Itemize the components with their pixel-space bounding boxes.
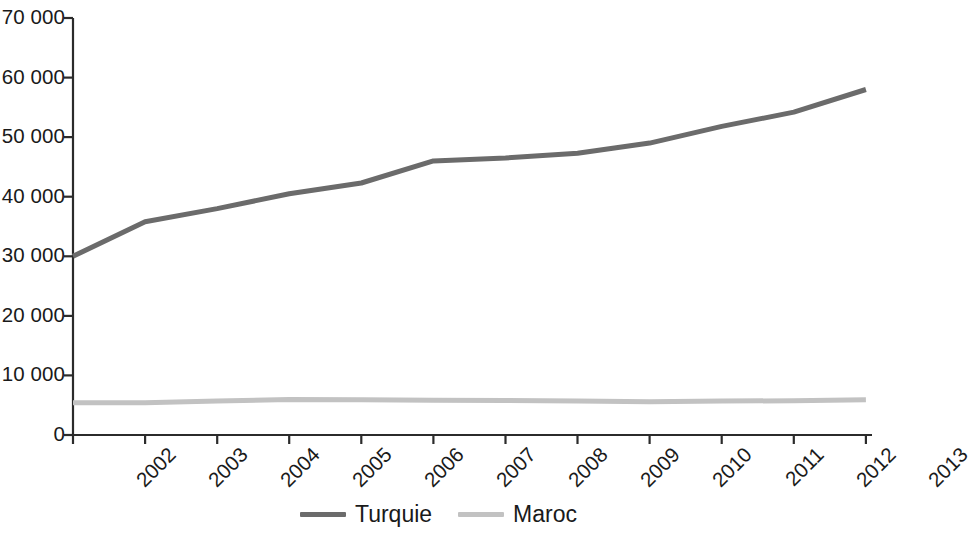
y-tick-label-0: 0: [0, 424, 65, 445]
legend-swatch-turquie: [300, 512, 346, 517]
legend-entry-maroc: Maroc: [458, 503, 577, 526]
x-axis-ticks: [73, 435, 866, 444]
legend-label-turquie: Turquie: [355, 503, 432, 526]
y-tick-label-30000: 30 000: [0, 245, 65, 266]
series-line-turquie: [73, 89, 866, 256]
series-line-maroc: [73, 400, 866, 403]
legend-swatch-maroc: [458, 512, 504, 517]
y-tick-label-60000: 60 000: [0, 67, 65, 88]
legend-label-maroc: Maroc: [513, 503, 577, 526]
y-tick-label-10000: 10 000: [0, 364, 65, 385]
y-tick-label-70000: 70 000: [0, 7, 65, 28]
chart-legend: Turquie Maroc: [0, 503, 877, 526]
y-axis-ticks: [64, 18, 73, 435]
y-tick-label-50000: 50 000: [0, 126, 65, 147]
legend-entry-turquie: Turquie: [300, 503, 432, 526]
y-tick-label-20000: 20 000: [0, 305, 65, 326]
y-tick-label-40000: 40 000: [0, 186, 65, 207]
